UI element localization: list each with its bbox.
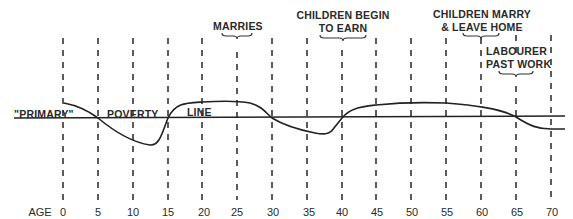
tick-50: 50 xyxy=(406,206,418,218)
children-begin-line2: TO EARN xyxy=(295,22,391,35)
x-axis-label: AGE xyxy=(28,206,51,218)
tick-55: 55 xyxy=(441,206,453,218)
tick-15: 15 xyxy=(162,206,174,218)
children-begin-annotation: CHILDREN BEGIN TO EARN xyxy=(295,9,391,35)
children-marry-line2: & LEAVE HOME xyxy=(432,21,532,34)
children-marry-annotation: CHILDREN MARRY & LEAVE HOME xyxy=(432,8,532,34)
labourer-line1: LABOURER xyxy=(486,45,551,58)
tick-35: 35 xyxy=(303,206,315,218)
tick-5: 5 xyxy=(95,206,101,218)
tick-65: 65 xyxy=(511,206,523,218)
line-label: LINE xyxy=(187,106,212,119)
children-begin-line1: CHILDREN BEGIN xyxy=(295,9,391,22)
tick-70: 70 xyxy=(546,206,558,218)
children-marry-line1: CHILDREN MARRY xyxy=(432,8,532,21)
labourer-annotation: LABOURER PAST WORK xyxy=(486,45,551,71)
poverty-label: POVERTY xyxy=(107,108,159,121)
tick-60: 60 xyxy=(476,206,488,218)
marries-annotation: MARRIES xyxy=(213,20,263,33)
tick-45: 45 xyxy=(371,206,383,218)
tick-30: 30 xyxy=(267,206,279,218)
tick-25: 25 xyxy=(231,206,243,218)
tick-10: 10 xyxy=(127,206,139,218)
labourer-line2: PAST WORK xyxy=(486,58,551,71)
tick-0: 0 xyxy=(60,206,66,218)
primary-label: "PRIMARY" xyxy=(14,108,74,121)
tick-20: 20 xyxy=(198,206,210,218)
tick-40: 40 xyxy=(336,206,348,218)
